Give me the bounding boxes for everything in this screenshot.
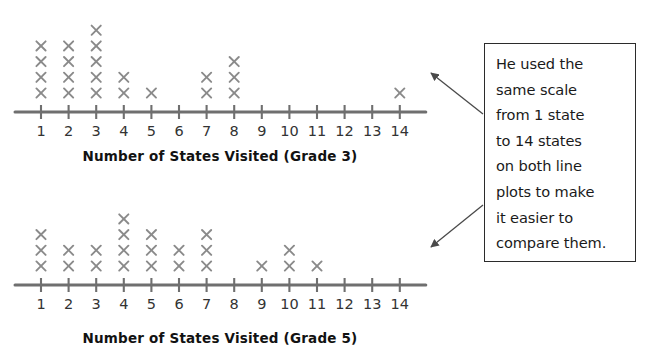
axis-tick-label: 12 — [335, 296, 353, 312]
data-mark-x — [119, 261, 128, 270]
data-mark-x — [119, 230, 128, 239]
data-mark-x — [36, 73, 45, 82]
data-mark-x — [64, 41, 73, 50]
data-mark-x — [36, 246, 45, 255]
axis-tick-label: 10 — [280, 296, 298, 312]
data-mark-x — [230, 88, 239, 97]
data-mark-x — [92, 26, 101, 35]
axis-tick-label: 13 — [363, 296, 381, 312]
data-mark-x — [147, 246, 156, 255]
axis-tick-label: 7 — [202, 123, 211, 139]
axis-tick-label: 6 — [174, 123, 183, 139]
data-mark-x — [64, 88, 73, 97]
axis-tick-label: 6 — [174, 296, 183, 312]
data-mark-x — [92, 57, 101, 66]
axis-tick-label: 14 — [391, 123, 409, 139]
axis-tick-label: 9 — [257, 123, 266, 139]
data-mark-x — [92, 246, 101, 255]
axis-tick-label: 5 — [147, 123, 156, 139]
callout-box: He used the same scale from 1 state to 1… — [484, 43, 636, 262]
data-mark-x — [174, 246, 183, 255]
axis-tick-label: 9 — [257, 296, 266, 312]
axis-tick-label: 8 — [230, 123, 239, 139]
data-mark-x — [202, 73, 211, 82]
axis-tick-label: 2 — [64, 296, 73, 312]
data-mark-x — [285, 246, 294, 255]
data-mark-x — [92, 261, 101, 270]
data-mark-x — [92, 88, 101, 97]
data-mark-x — [92, 41, 101, 50]
axis-tick-label: 5 — [147, 296, 156, 312]
axis-tick-label: 7 — [202, 296, 211, 312]
data-mark-x — [36, 41, 45, 50]
data-mark-x — [230, 57, 239, 66]
axis-tick-label: 2 — [64, 123, 73, 139]
axis-tick-label: 4 — [119, 296, 128, 312]
data-mark-x — [119, 73, 128, 82]
axis-tick-label: 4 — [119, 123, 128, 139]
data-mark-x — [36, 261, 45, 270]
axis-tick-label: 13 — [363, 123, 381, 139]
axis-tick-label: 1 — [36, 296, 45, 312]
axis-tick-label: 12 — [335, 123, 353, 139]
data-mark-x — [64, 57, 73, 66]
axis-tick-label: 3 — [92, 123, 101, 139]
data-mark-x — [36, 230, 45, 239]
axis-tick-label: 1 — [36, 123, 45, 139]
line-plot-grade-3-title: Number of States Visited (Grade 3) — [0, 148, 440, 164]
data-mark-x — [395, 88, 404, 97]
data-mark-x — [64, 73, 73, 82]
axis-tick-label: 11 — [308, 296, 326, 312]
axis-tick-label: 10 — [280, 123, 298, 139]
axis-tick-label: 14 — [391, 296, 409, 312]
data-mark-x — [147, 261, 156, 270]
callout-text: He used the same scale from 1 state to 1… — [496, 51, 626, 256]
data-mark-x — [147, 88, 156, 97]
data-mark-x — [202, 230, 211, 239]
data-mark-x — [64, 246, 73, 255]
axis-tick-label: 11 — [308, 123, 326, 139]
data-mark-x — [202, 246, 211, 255]
line-plot-grade-5-graphic: 1234567891011121314 — [0, 173, 440, 318]
data-mark-x — [257, 261, 266, 270]
data-mark-x — [285, 261, 294, 270]
line-plot-grade-3-graphic: 1234567891011121314 — [0, 0, 440, 145]
line-plot-grade-5-title: Number of States Visited (Grade 5) — [0, 330, 440, 346]
data-mark-x — [119, 88, 128, 97]
line-plot-grade-3: 1234567891011121314 — [0, 0, 440, 145]
data-mark-x — [202, 88, 211, 97]
worksheet-canvas: 1234567891011121314 Number of States Vis… — [0, 0, 654, 360]
data-mark-x — [312, 261, 321, 270]
data-mark-x — [92, 73, 101, 82]
data-mark-x — [174, 261, 183, 270]
data-mark-x — [36, 88, 45, 97]
data-mark-x — [147, 230, 156, 239]
axis-tick-label: 8 — [230, 296, 239, 312]
data-mark-x — [119, 214, 128, 223]
line-plot-grade-5: 1234567891011121314 — [0, 173, 440, 318]
data-mark-x — [36, 57, 45, 66]
data-mark-x — [230, 73, 239, 82]
axis-tick-label: 3 — [92, 296, 101, 312]
data-mark-x — [119, 246, 128, 255]
data-mark-x — [202, 261, 211, 270]
data-mark-x — [64, 261, 73, 270]
